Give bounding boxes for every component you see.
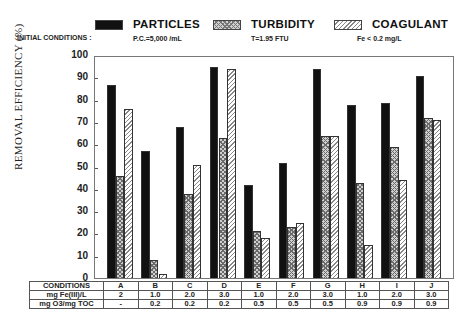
y-tick-label: 10 bbox=[62, 250, 88, 261]
bar-turbidity-d bbox=[219, 138, 228, 278]
bar-particles-h bbox=[347, 105, 356, 278]
legend-label-turbidity: TURBIDITY bbox=[251, 18, 315, 30]
y-tick-label: 70 bbox=[62, 116, 88, 127]
bar-particles-i bbox=[381, 103, 390, 278]
bar-particles-a bbox=[107, 85, 116, 278]
bar-turbidity-h bbox=[356, 183, 365, 278]
bar-coagulant-d bbox=[227, 69, 236, 278]
table-row: mg O3/mg TOC-0.20.20.20.50.50.50.90.90.9 bbox=[30, 300, 449, 309]
y-tick-label: 50 bbox=[62, 161, 88, 172]
bar-particles-j bbox=[416, 76, 425, 278]
bar-coagulant-g bbox=[330, 136, 339, 278]
bar-turbidity-g bbox=[321, 136, 330, 278]
legend-swatch-turbidity bbox=[213, 20, 241, 30]
bar-coagulant-b bbox=[159, 274, 168, 278]
bar-coagulant-h bbox=[364, 245, 373, 278]
legend-label-particles: PARTICLES bbox=[133, 18, 200, 30]
table-row: CONDITIONSABCDEFGHIJ bbox=[30, 282, 449, 291]
y-tick-label: 30 bbox=[62, 205, 88, 216]
table-cell: 0.5 bbox=[242, 300, 277, 309]
bar-coagulant-i bbox=[399, 180, 408, 278]
table-cell: 0.5 bbox=[311, 300, 346, 309]
bar-particles-d bbox=[210, 67, 219, 278]
table-row-header: mg O3/mg TOC bbox=[30, 300, 104, 309]
legend-sub-particles: P.C.=5,000 /mL bbox=[133, 35, 182, 42]
y-tick-label: 80 bbox=[62, 94, 88, 105]
y-tick-label: 20 bbox=[62, 227, 88, 238]
legend-sub-coagulant: Fe < 0.2 mg/L bbox=[357, 35, 402, 42]
table-cell: 0.9 bbox=[414, 300, 449, 309]
bar-turbidity-b bbox=[150, 260, 159, 278]
table-cell: 0.9 bbox=[380, 300, 415, 309]
bar-turbidity-e bbox=[253, 231, 262, 278]
bar-turbidity-j bbox=[424, 118, 433, 278]
y-tick-label: 60 bbox=[62, 138, 88, 149]
table-cell: 0.5 bbox=[276, 300, 311, 309]
bar-coagulant-a bbox=[124, 109, 133, 278]
bar-particles-f bbox=[279, 163, 288, 278]
y-axis-label: REMOVAL EFFICIENCY (%) bbox=[12, 23, 24, 170]
bar-particles-e bbox=[244, 185, 253, 278]
bar-coagulant-f bbox=[296, 223, 305, 279]
plot-area bbox=[94, 56, 454, 279]
y-tick-label: 90 bbox=[62, 71, 88, 82]
bar-coagulant-c bbox=[193, 165, 202, 278]
bar-particles-b bbox=[141, 151, 150, 278]
bar-coagulant-e bbox=[261, 238, 270, 278]
bar-turbidity-a bbox=[116, 176, 125, 278]
bar-coagulant-j bbox=[433, 120, 442, 278]
bar-turbidity-f bbox=[287, 227, 296, 278]
legend-swatch-particles bbox=[95, 20, 123, 30]
legend-sub-turbidity: T=1.95 FTU bbox=[251, 35, 289, 42]
table-cell: 0.9 bbox=[345, 300, 380, 309]
conditions-table: CONDITIONSABCDEFGHIJmg Fe(III)/L21.02.03… bbox=[29, 281, 449, 309]
legend-swatch-coagulant bbox=[334, 20, 362, 30]
bar-particles-c bbox=[176, 127, 185, 278]
y-tick-label: 100 bbox=[62, 49, 88, 60]
table-cell: 0.2 bbox=[207, 300, 242, 309]
bar-turbidity-c bbox=[184, 194, 193, 278]
table-cell: 0.2 bbox=[173, 300, 208, 309]
initial-conditions-label: INITIAL CONDITIONS : bbox=[17, 34, 92, 41]
legend-label-coagulant: COAGULANT bbox=[372, 18, 448, 30]
table-cell: 0.2 bbox=[138, 300, 173, 309]
table-cell: - bbox=[104, 300, 139, 309]
bar-particles-g bbox=[313, 69, 322, 278]
y-tick-label: 40 bbox=[62, 183, 88, 194]
bar-turbidity-i bbox=[390, 147, 399, 278]
